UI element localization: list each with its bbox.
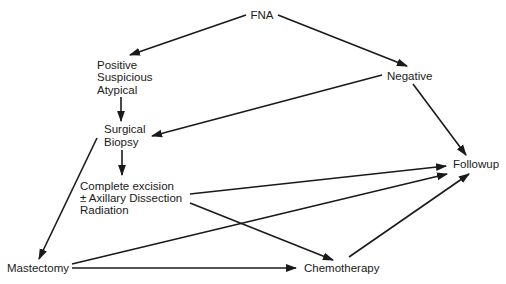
node-positive-line-3: Atypical: [97, 84, 137, 96]
node-positive: Positive Suspicious Atypical: [97, 59, 153, 96]
edge-chemotherapy-to-followup: [349, 174, 469, 257]
edge-fna-to-negative: [278, 15, 407, 66]
node-excision: Complete excision ± Axillary Dissection …: [80, 180, 182, 216]
node-chemotherapy-label: Chemotherapy: [304, 262, 380, 274]
edge-excision-to-chemotherapy: [190, 203, 333, 260]
node-biopsy-line-2: Biopsy: [104, 136, 139, 148]
node-positive-line-1: Positive: [97, 59, 137, 71]
node-chemotherapy: Chemotherapy: [304, 262, 380, 274]
edge-excision-to-followup: [190, 166, 446, 194]
node-biopsy-line-1: Surgical: [104, 123, 146, 135]
node-excision-line-2: ± Axillary Dissection: [80, 192, 182, 204]
node-fna: FNA: [251, 9, 274, 21]
node-excision-line-3: Radiation: [80, 204, 129, 216]
node-negative-label: Negative: [387, 70, 432, 82]
flowchart-diagram: FNA Positive Suspicious Atypical Negativ…: [0, 0, 506, 284]
edge-negative-to-followup: [413, 84, 466, 155]
node-biopsy: Surgical Biopsy: [104, 123, 146, 148]
node-negative: Negative: [387, 70, 432, 82]
node-mastectomy-label: Mastectomy: [7, 262, 69, 274]
node-followup: Followup: [453, 158, 499, 170]
node-followup-label: Followup: [453, 158, 499, 170]
node-fna-label: FNA: [251, 9, 274, 21]
node-mastectomy: Mastectomy: [7, 262, 69, 274]
node-excision-line-1: Complete excision: [80, 180, 174, 192]
edge-fna-to-positive: [130, 15, 246, 55]
edge-negative-to-biopsy: [152, 75, 382, 136]
node-positive-line-2: Suspicious: [97, 71, 153, 83]
